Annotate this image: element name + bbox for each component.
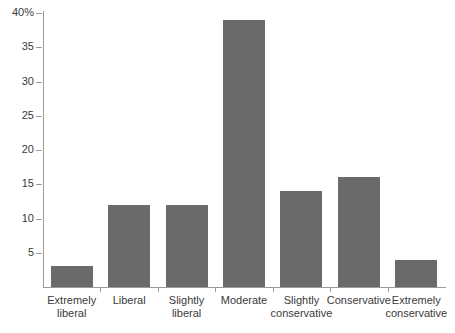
y-axis-tick: [36, 253, 42, 254]
y-axis-tick: [36, 219, 42, 220]
bar-slot: [395, 13, 437, 287]
bar[interactable]: [51, 266, 93, 287]
y-axis-tick: [36, 184, 42, 185]
x-axis-tick: [100, 288, 101, 292]
bar-slot: [223, 13, 265, 287]
bar-chart: 510152025303540% ExtremelyliberalLiberal…: [0, 0, 455, 333]
bar-slot: [108, 13, 150, 287]
y-axis-label-text: 40%: [2, 7, 34, 18]
x-axis-label-line1: Extremely: [377, 294, 455, 307]
x-axis-tick: [330, 288, 331, 292]
bar[interactable]: [223, 20, 265, 287]
y-axis-label-text: 10: [2, 213, 34, 224]
y-axis-tick: [36, 82, 42, 83]
x-axis-tick: [158, 288, 159, 292]
bar[interactable]: [395, 260, 437, 287]
x-axis-label-line2: conservative: [262, 307, 340, 320]
y-axis-tick: [36, 47, 42, 48]
bar[interactable]: [108, 205, 150, 287]
bar-slot: [280, 13, 322, 287]
y-axis-tick: [36, 116, 42, 117]
y-axis-label-text: 35: [2, 41, 34, 52]
x-axis-tick: [388, 288, 389, 292]
bar[interactable]: [338, 177, 380, 287]
y-axis-label-text: 5: [2, 247, 34, 258]
bar-slot: [338, 13, 380, 287]
bar-slot: [166, 13, 208, 287]
y-axis-tick: [36, 150, 42, 151]
x-axis-label-line2: liberal: [148, 307, 226, 320]
y-axis-tick: [36, 13, 42, 14]
y-axis-label-text: 15: [2, 178, 34, 189]
y-axis-label-text: 30: [2, 76, 34, 87]
y-axis-label-text: 20: [2, 144, 34, 155]
x-axis-label-line2: liberal: [33, 307, 111, 320]
bar[interactable]: [166, 205, 208, 287]
x-axis-tick: [215, 288, 216, 292]
bar[interactable]: [280, 191, 322, 287]
plot-area: [43, 13, 445, 287]
x-axis-line: [43, 287, 446, 288]
x-axis-label: Extremelyconservative: [377, 294, 455, 320]
bar-slot: [51, 13, 93, 287]
y-axis-label-text: 25: [2, 110, 34, 121]
x-axis-tick: [273, 288, 274, 292]
x-axis-label-line2: conservative: [377, 307, 455, 320]
